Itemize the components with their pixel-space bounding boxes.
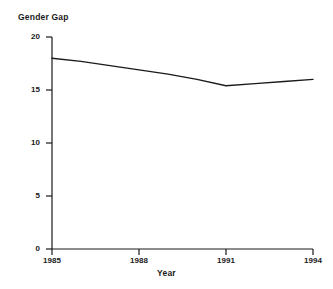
x-axis-tick-label: 1994 xyxy=(293,256,333,265)
x-axis-tick-label: 1985 xyxy=(32,256,72,265)
plot-area xyxy=(0,0,333,289)
x-axis-title: Year xyxy=(0,268,333,278)
chart-container: Gender Gap 20 15 10 5 0 1985 1988 1991 1… xyxy=(0,0,333,289)
y-axis-tick-label: 15 xyxy=(14,85,40,94)
x-axis-tick-label: 1988 xyxy=(119,256,159,265)
data-series-line xyxy=(52,58,313,86)
y-axis-tick-label: 0 xyxy=(14,244,40,253)
y-axis-tick-label: 20 xyxy=(14,32,40,41)
x-axis-tick-label: 1991 xyxy=(206,256,246,265)
y-axis-tick-label: 10 xyxy=(14,138,40,147)
y-axis-tick-label: 5 xyxy=(14,191,40,200)
